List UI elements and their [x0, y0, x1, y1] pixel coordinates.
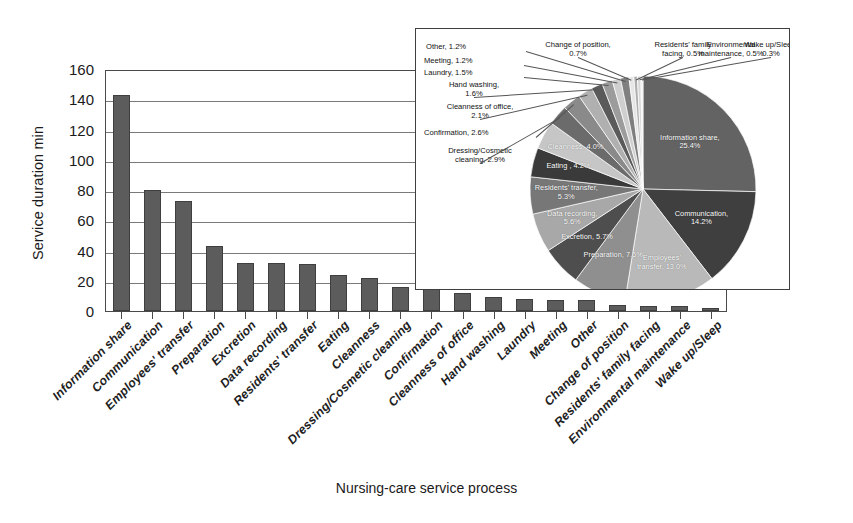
- pie-slice-label: Communication,14.2%: [656, 210, 746, 227]
- bar: [671, 306, 688, 311]
- bar-cell: [199, 71, 230, 311]
- x-tick: [167, 312, 198, 319]
- x-axis-tick-marks: [105, 312, 727, 319]
- pie-slice-label: Data recording,5.6%: [527, 210, 617, 227]
- bar: [330, 275, 347, 311]
- pie-slice-label-line2: 14.2%: [656, 218, 746, 226]
- x-tick: [540, 312, 571, 319]
- bar-cell: [323, 71, 354, 311]
- x-tick: [696, 312, 727, 319]
- x-tick: [198, 312, 229, 319]
- pie-callout-line1: Wake up/Sleep,: [728, 41, 790, 50]
- bar: [485, 297, 502, 311]
- bar: [175, 201, 192, 311]
- y-tick-label: 120: [52, 123, 94, 138]
- bar-cell: [230, 71, 261, 311]
- pie-slice-label: Preparation, 7.6%: [568, 251, 658, 259]
- bar-cell: [292, 71, 323, 311]
- figure-root: Service duration min 1601401201008060402…: [0, 0, 853, 523]
- pie-slice-label: Excretion, 5.7%: [542, 233, 632, 241]
- bar: [144, 190, 161, 311]
- x-tick: [665, 312, 696, 319]
- bar: [113, 95, 130, 311]
- y-tick-label: 80: [52, 183, 94, 198]
- pie-callout-label: Meeting, 1.2%: [424, 57, 524, 66]
- pie-slice-label-line1: Cleanness, 4.0%: [530, 143, 620, 151]
- pie-slice-label-line2: 5.3%: [521, 193, 611, 201]
- bar: [206, 246, 223, 311]
- x-tick: [416, 312, 447, 319]
- bar: [299, 264, 316, 311]
- pie-slice-label: Cleanness, 4.0%: [530, 143, 620, 151]
- x-tick: [229, 312, 260, 319]
- pie-callout-label: Other, 1.2%: [426, 43, 526, 52]
- pie-slice-label-line1: Preparation, 7.6%: [568, 251, 658, 259]
- x-tick: [509, 312, 540, 319]
- pie-callout-line2: 0.3%: [728, 50, 790, 59]
- pie-callout-label: Confirmation, 2.6%: [424, 129, 536, 138]
- pie-callout-label: Laundry, 1.5%: [424, 69, 524, 78]
- bar: [702, 308, 719, 311]
- pie-chart-inset: Information share,25.4%Communication,14.…: [415, 28, 790, 290]
- x-tick: [292, 312, 323, 319]
- bar-cell: [168, 71, 199, 311]
- pie-slice-label-line2: transfer, 13.0%: [617, 263, 707, 271]
- x-tick: [260, 312, 291, 319]
- y-tick-label: 160: [52, 62, 94, 77]
- y-tick-label: 0: [52, 304, 94, 319]
- bar: [237, 263, 254, 311]
- bar-cell: [261, 71, 292, 311]
- pie-slice-label-line1: Eating , 4.2%: [523, 162, 613, 170]
- pie-slice-label: Residents' transfer,5.3%: [521, 184, 611, 201]
- y-tick-label: 20: [52, 274, 94, 289]
- bar-cell: [106, 71, 137, 311]
- bar: [423, 288, 440, 311]
- bar: [454, 293, 471, 311]
- bar: [516, 299, 533, 311]
- x-tick: [385, 312, 416, 319]
- bar: [547, 300, 564, 311]
- x-tick: [447, 312, 478, 319]
- x-tick: [478, 312, 509, 319]
- bar: [361, 278, 378, 311]
- pie-callout-line1: Confirmation, 2.6%: [424, 129, 536, 138]
- bar: [392, 287, 409, 311]
- pie-callout-line1: Other, 1.2%: [426, 43, 526, 52]
- bar: [578, 300, 595, 311]
- bar: [268, 263, 285, 311]
- bar-cell: [354, 71, 385, 311]
- pie-slice-label-line2: 5.6%: [527, 218, 617, 226]
- y-tick-label: 60: [52, 213, 94, 228]
- pie-callout-line1: Laundry, 1.5%: [424, 69, 524, 78]
- pie-callout-label: Change of position,0.7%: [526, 41, 630, 58]
- bar: [640, 306, 657, 311]
- x-tick: [571, 312, 602, 319]
- pie-slice-label: Eating , 4.2%: [523, 162, 613, 170]
- pie-callout-label: Hand washing,1.6%: [424, 81, 524, 98]
- bar-cell: [385, 71, 416, 311]
- x-axis-title: Nursing-care service process: [0, 480, 853, 496]
- bar: [609, 305, 626, 311]
- x-tick: [136, 312, 167, 319]
- pie-callout-line1: Meeting, 1.2%: [424, 57, 524, 66]
- x-tick: [634, 312, 665, 319]
- y-tick-label: 140: [52, 92, 94, 107]
- pie-slice-label-line2: 25.4%: [645, 142, 735, 150]
- pie-slice-label: Information share,25.4%: [645, 134, 735, 151]
- pie-slice-label-line1: Excretion, 5.7%: [542, 233, 632, 241]
- y-tick-label: 40: [52, 244, 94, 259]
- x-tick: [323, 312, 354, 319]
- y-axis-title: Service duration min: [30, 83, 46, 303]
- y-tick-label: 100: [52, 153, 94, 168]
- x-tick: [105, 312, 136, 319]
- x-tick: [354, 312, 385, 319]
- x-tick: [603, 312, 634, 319]
- bar-cell: [137, 71, 168, 311]
- pie-callout-label: Wake up/Sleep,0.3%: [728, 41, 790, 58]
